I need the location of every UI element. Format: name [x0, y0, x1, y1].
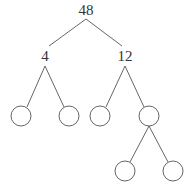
edge-4-to-circle2 — [45, 66, 64, 107]
empty-node-circle-5 — [115, 161, 135, 181]
left-child-label: 4 — [41, 49, 49, 64]
factor-tree-diagram: 48 4 12 — [0, 0, 196, 188]
edge-48-to-4 — [49, 19, 86, 46]
empty-node-circle-2 — [59, 106, 79, 126]
empty-node-circle-6 — [163, 161, 183, 181]
edge-48-to-12 — [86, 19, 122, 46]
edge-circle4-to-circle6 — [149, 126, 168, 162]
root-node-label: 48 — [79, 3, 94, 18]
tree-edges-and-circles — [0, 0, 196, 188]
edge-4-to-circle1 — [27, 66, 45, 107]
right-child-label: 12 — [118, 49, 133, 64]
edge-12-to-circle3 — [106, 66, 125, 107]
edge-12-to-circle4 — [125, 66, 144, 107]
edge-circle4-to-circle5 — [130, 126, 149, 162]
empty-node-circle-1 — [11, 106, 31, 126]
empty-node-circle-4 — [139, 106, 159, 126]
empty-node-circle-3 — [90, 106, 110, 126]
